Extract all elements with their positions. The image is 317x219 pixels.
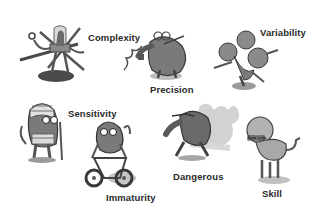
- label-immaturity: Immaturity: [106, 192, 156, 203]
- dangerous-creature-icon: [160, 100, 250, 164]
- immaturity-creature-icon: [82, 118, 142, 190]
- variability-creature-icon: [212, 30, 282, 92]
- label-variability: Variability: [260, 27, 306, 38]
- label-precision: Precision: [150, 84, 194, 95]
- label-dangerous: Dangerous: [173, 171, 224, 182]
- label-skill: Skill: [262, 188, 282, 199]
- skill-creature-icon: [240, 116, 302, 186]
- sensitivity-creature-icon: [16, 102, 68, 164]
- complexity-creature-icon: [18, 22, 90, 84]
- illustration-canvas: Complexity Precision Variabili: [0, 0, 317, 219]
- precision-creature-icon: [120, 26, 192, 82]
